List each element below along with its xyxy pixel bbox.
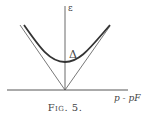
figure-caption: Fig. 5. <box>0 102 130 113</box>
gapped-spectrum-curve <box>24 25 110 62</box>
gap-label: Δ <box>69 48 77 61</box>
y-axis-label: ε <box>68 3 73 13</box>
asymptote-left <box>20 25 65 90</box>
